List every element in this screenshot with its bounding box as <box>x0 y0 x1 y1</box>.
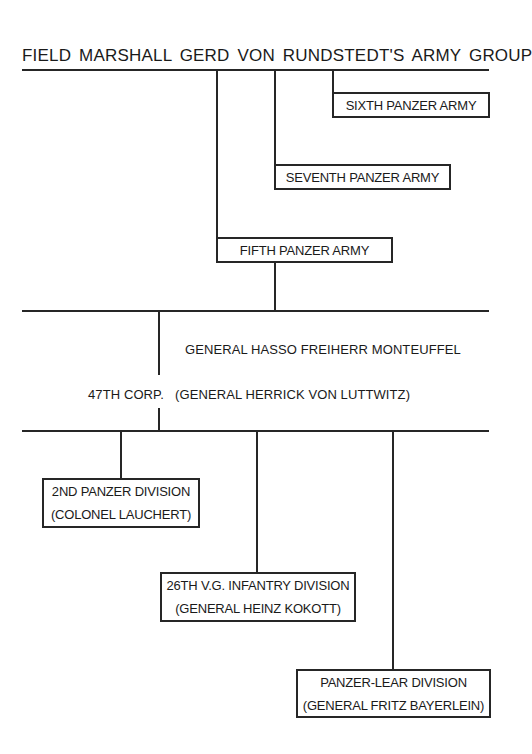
2nd-panzer-division-commander: (COLONEL LAUCHERT) <box>51 503 191 526</box>
26th-infantry-division-commander: (GENERAL HEINZ KOKOTT) <box>175 597 341 620</box>
sixth-panzer-army-box: SIXTH PANZER ARMY <box>332 92 490 118</box>
connector-seventh-army <box>274 70 276 165</box>
connector-sixth-army <box>332 70 334 93</box>
army-group-title: FIELD MARSHALL GERD VON RUNDSTEDT'S ARMY… <box>22 46 532 66</box>
2nd-panzer-division-box: 2ND PANZER DIVISION (COLONEL LAUCHERT) <box>42 478 200 528</box>
26th-infantry-division-name: 26TH V.G. INFANTRY DIVISION <box>167 574 350 597</box>
connector-corps-down <box>158 408 160 431</box>
sixth-panzer-army-label: SIXTH PANZER ARMY <box>346 94 477 117</box>
panzer-lear-division-commander: (GENERAL FRITZ BAYERLEIN) <box>303 694 484 717</box>
corps-name: 47TH CORP. <box>88 387 164 402</box>
connector-panzer-lear <box>392 431 394 670</box>
seventh-panzer-army-box: SEVENTH PANZER ARMY <box>274 164 451 190</box>
fifth-panzer-army-label: FIFTH PANZER ARMY <box>240 239 369 262</box>
army-group-line <box>22 69 489 71</box>
2nd-panzer-division-name: 2ND PANZER DIVISION <box>52 480 190 503</box>
fifth-panzer-army-box: FIFTH PANZER ARMY <box>216 237 393 263</box>
corps-commander: (GENERAL HERRICK VON LUTTWITZ) <box>175 387 410 402</box>
connector-fifth-army <box>216 70 218 238</box>
connector-fifth-army-down <box>274 263 276 311</box>
connector-corps-up <box>158 311 160 375</box>
panzer-lear-division-box: PANZER-LEAR DIVISION (GENERAL FRITZ BAYE… <box>296 669 491 718</box>
connector-2nd-panzer <box>120 431 122 479</box>
fifth-army-line <box>22 310 489 312</box>
seventh-panzer-army-label: SEVENTH PANZER ARMY <box>286 166 439 189</box>
panzer-lear-division-name: PANZER-LEAR DIVISION <box>320 671 467 694</box>
fifth-army-commander: GENERAL HASSO FREIHERR MONTEUFFEL <box>185 342 461 357</box>
26th-infantry-division-box: 26TH V.G. INFANTRY DIVISION (GENERAL HEI… <box>160 572 356 622</box>
connector-26th-infantry <box>256 431 258 573</box>
